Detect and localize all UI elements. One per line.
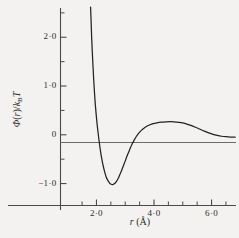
x-axis-title-angstrom: Å — [140, 216, 147, 227]
y-axis-title-slash: / — [11, 106, 22, 109]
y-axis-title: Φ(r)/kBT — [11, 62, 24, 158]
y-axis-tick-label: 2·0 — [10, 31, 57, 41]
y-axis-title-phi: Φ — [11, 120, 22, 128]
y-axis-title-k: k — [11, 102, 22, 106]
y-axis-tick-label: −1·0 — [10, 178, 57, 188]
x-axis-major-ticks — [96, 200, 211, 206]
y-axis-title-b-subscript: B — [16, 97, 24, 102]
y-axis-title-open-paren: ( — [11, 116, 22, 119]
x-axis-title: r (Å) — [60, 216, 220, 227]
pair-potential-chart-figure: 2·01·00−1·0 2·04·06·0 Φ(r)/kBT r (Å) — [0, 0, 239, 238]
x-axis-title-close-paren: ) — [147, 216, 150, 227]
x-axis-title-r: r — [130, 216, 134, 227]
y-axis-title-t: T — [11, 92, 22, 98]
y-axis-title-close-paren: ) — [11, 109, 22, 112]
potential-curve — [91, 7, 236, 185]
y-axis-title-r: r — [11, 112, 22, 116]
